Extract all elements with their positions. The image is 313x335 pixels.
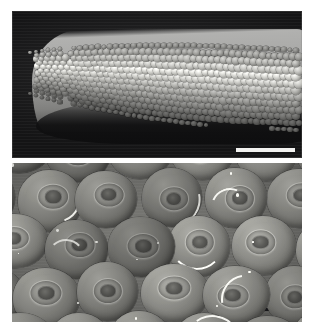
facet-central-ring (93, 278, 123, 304)
surface-debris-speck (252, 241, 254, 243)
facet-central-ring (62, 163, 94, 167)
facet-central-pit (252, 235, 269, 249)
facet-central-pit (287, 290, 302, 304)
facet-dome-closeup (265, 266, 302, 322)
scale-bar-top (236, 148, 295, 152)
facet-central-ring (12, 226, 30, 250)
facet-rim-highlight (170, 216, 225, 271)
facet-central-ring (30, 280, 63, 306)
facet-central-pit (12, 232, 22, 245)
sem-panel-top (12, 11, 302, 158)
surface-debris-speck (136, 259, 137, 260)
facet-rim-highlight (55, 318, 107, 322)
facet-central-pit (37, 286, 55, 301)
facet-mosaic-bottom (12, 163, 302, 322)
surface-debris-speck (248, 271, 251, 274)
surface-debris-speck (12, 163, 14, 167)
surface-debris-speck (18, 253, 19, 254)
facet-central-ring (94, 182, 125, 207)
surface-debris-speck (95, 241, 97, 243)
surface-debris-speck (230, 172, 233, 175)
facet-central-ring (158, 275, 191, 300)
facet-central-pit (293, 188, 302, 202)
facet-central-ring (127, 233, 160, 259)
surface-debris-speck (216, 305, 219, 308)
facet-central-ring (245, 230, 277, 255)
facet-central-ring (286, 183, 302, 208)
facet-central-ring (280, 284, 302, 309)
specimen-underside-shadow (36, 99, 302, 144)
sem-panel-bottom (12, 163, 302, 322)
facet-central-pit (101, 188, 118, 202)
facet-central-pit (165, 281, 183, 295)
surface-debris-speck (56, 229, 59, 232)
surface-debris-speck (77, 302, 79, 304)
surface-debris-speck (236, 193, 239, 196)
surface-debris-speck (157, 242, 159, 244)
facet-central-pit (134, 239, 152, 254)
facet-central-pit (100, 284, 117, 298)
figure-root (0, 0, 313, 335)
surface-debris-speck (135, 317, 137, 319)
